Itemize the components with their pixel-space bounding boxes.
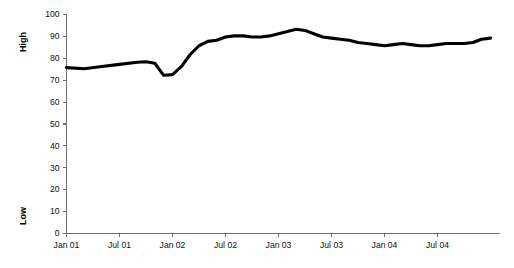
y-tick-label: 100 xyxy=(45,9,60,19)
y-tick-label: 40 xyxy=(50,141,60,151)
y-axis-group: 0102030405060708090100 xyxy=(45,9,66,238)
x-tick-label: Jan 01 xyxy=(54,240,80,250)
y-axis-ticks: 0102030405060708090100 xyxy=(45,9,66,238)
x-axis-ticks: Jan 01Jul 01Jan 02Jul 02Jan 03Jul 03Jan … xyxy=(54,233,450,250)
y-tick-label: 60 xyxy=(50,97,60,107)
x-tick-label: Jan 02 xyxy=(160,240,186,250)
x-tick-label: Jan 04 xyxy=(372,240,398,250)
line-chart: 0102030405060708090100 Jan 01Jul 01Jan 0… xyxy=(0,0,514,268)
series-line-index xyxy=(67,29,491,75)
y-tick-label: 20 xyxy=(50,184,60,194)
y-tick-label: 10 xyxy=(50,206,60,216)
y-axis-low-label: Low xyxy=(18,206,28,225)
y-tick-label: 70 xyxy=(50,75,60,85)
x-tick-label: Jan 03 xyxy=(266,240,292,250)
y-tick-label: 30 xyxy=(50,163,60,173)
x-tick-label: Jul 03 xyxy=(320,240,343,250)
y-tick-label: 50 xyxy=(50,119,60,129)
chart-svg: 0102030405060708090100 Jan 01Jul 01Jan 0… xyxy=(0,0,514,268)
x-tick-label: Jul 04 xyxy=(426,240,449,250)
x-tick-label: Jul 02 xyxy=(214,240,237,250)
y-tick-label: 90 xyxy=(50,31,60,41)
x-tick-label: Jul 01 xyxy=(108,240,131,250)
axis-titles: High Low xyxy=(18,32,28,225)
y-axis-high-label: High xyxy=(18,32,28,52)
y-tick-label: 0 xyxy=(55,228,60,238)
y-tick-label: 80 xyxy=(50,53,60,63)
x-axis-group: Jan 01Jul 01Jan 02Jul 02Jan 03Jul 03Jan … xyxy=(54,233,500,250)
